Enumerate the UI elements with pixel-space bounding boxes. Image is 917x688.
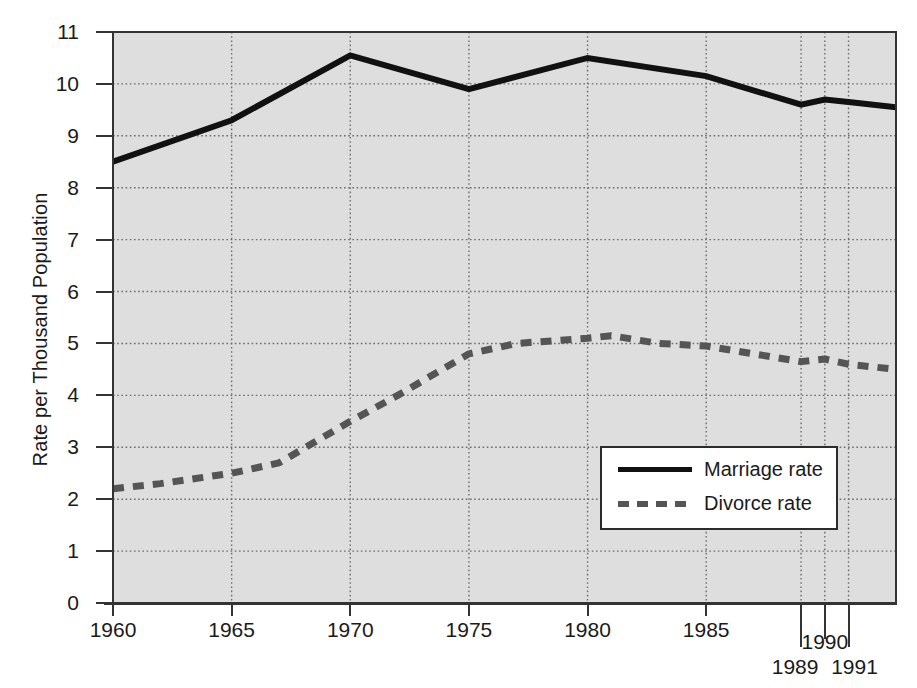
x-tick-mark	[705, 603, 707, 616]
y-tick-mark	[96, 239, 113, 241]
y-tick-label: 2	[19, 488, 79, 509]
plot-border-right	[895, 31, 897, 605]
y-tick-mark	[96, 187, 113, 189]
y-tick-label: 8	[19, 177, 79, 198]
plot-border-top	[113, 31, 897, 33]
x-tick-label: 1985	[666, 619, 746, 640]
x-tick-mark	[848, 603, 850, 647]
x-tick-mark	[468, 603, 470, 616]
y-tick-mark	[96, 31, 113, 33]
y-tick-mark	[96, 135, 113, 137]
legend-label-divorce-rate: Divorce rate	[704, 492, 812, 515]
x-tick-label: 1965	[192, 619, 272, 640]
x-tick-mark	[112, 603, 114, 616]
x-tick-label: 1990	[785, 631, 865, 652]
y-axis-title: Rate per Thousand Population	[29, 110, 52, 550]
x-tick-mark	[587, 603, 589, 616]
chart-legend: Marriage rate Divorce rate	[600, 446, 838, 530]
x-tick-mark	[231, 603, 233, 616]
y-tick-mark	[96, 394, 113, 396]
x-tick-label: 1991	[815, 656, 895, 677]
y-tick-label: 4	[19, 384, 79, 405]
y-tick-label: 0	[19, 592, 79, 613]
y-tick-label: 5	[19, 332, 79, 353]
y-tick-label: 10	[19, 73, 79, 94]
x-tick-label: 1960	[73, 619, 153, 640]
y-tick-mark	[96, 291, 113, 293]
y-tick-mark	[96, 446, 113, 448]
y-tick-label: 11	[19, 21, 79, 42]
y-tick-mark	[96, 498, 113, 500]
solid-line-swatch	[616, 456, 694, 482]
x-tick-label: 1980	[548, 619, 628, 640]
y-tick-label: 3	[19, 436, 79, 457]
y-tick-mark	[96, 342, 113, 344]
line-chart: Rate per Thousand Population 01234567891…	[0, 0, 917, 688]
dashed-line-swatch	[616, 490, 694, 516]
x-tick-mark	[349, 603, 351, 616]
y-tick-mark	[96, 83, 113, 85]
y-tick-label: 7	[19, 229, 79, 250]
y-tick-mark	[96, 550, 113, 552]
x-axis-line	[104, 602, 897, 605]
legend-label-marriage-rate: Marriage rate	[704, 458, 823, 481]
y-tick-label: 9	[19, 125, 79, 146]
series-line-marriage-rate	[113, 55, 896, 161]
x-tick-label: 1970	[310, 619, 390, 640]
y-tick-label: 6	[19, 281, 79, 302]
y-tick-label: 1	[19, 540, 79, 561]
x-tick-mark	[800, 603, 802, 647]
y-tick-mark	[96, 602, 113, 604]
legend-entry-marriage-rate: Marriage rate	[616, 456, 823, 482]
legend-entry-divorce-rate: Divorce rate	[616, 490, 812, 516]
y-axis-line	[112, 31, 114, 605]
x-tick-label: 1975	[429, 619, 509, 640]
